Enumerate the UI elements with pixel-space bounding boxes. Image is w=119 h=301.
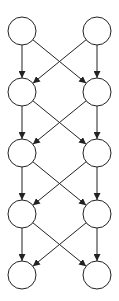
graph-node-R1: [83, 78, 111, 106]
node-layer: [8, 17, 111, 289]
graph-node-R3: [83, 200, 111, 228]
graph-node-R4: [83, 261, 111, 289]
graph-node-R0: [83, 17, 111, 45]
butterfly-graph-diagram: [0, 0, 119, 301]
graph-node-R2: [83, 139, 111, 167]
graph-node-L0: [8, 17, 36, 45]
graph-node-L3: [8, 200, 36, 228]
graph-node-L1: [8, 78, 36, 106]
graph-node-L4: [8, 261, 36, 289]
graph-node-L2: [8, 139, 36, 167]
